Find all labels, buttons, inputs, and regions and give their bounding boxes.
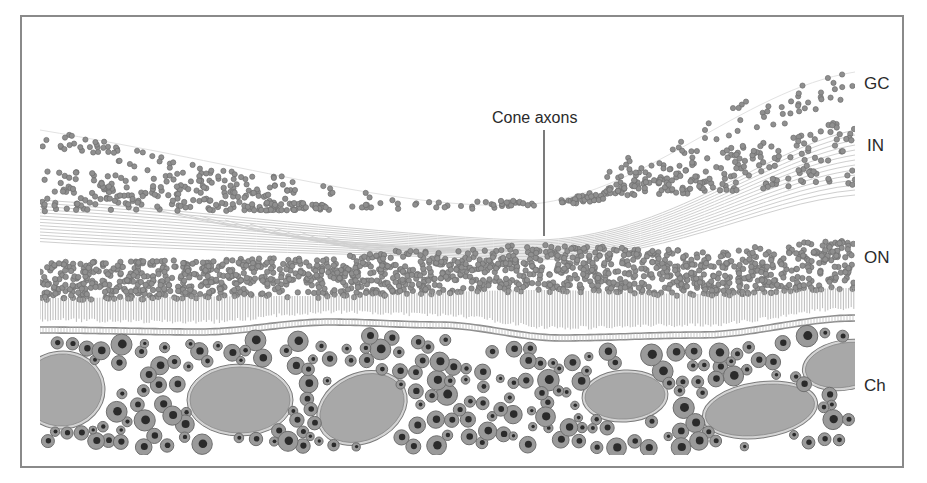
cone-axons-label: Cone axons [492,110,577,126]
layer-label-on: ON [864,249,890,266]
layer-label-in: IN [867,137,884,154]
layer-label-ch: Ch [864,377,886,394]
layer-label-gc: GC [864,75,890,92]
cone-axon-fibers [40,72,855,260]
choroid-layer [16,325,892,459]
retina-illustration [0,0,927,483]
